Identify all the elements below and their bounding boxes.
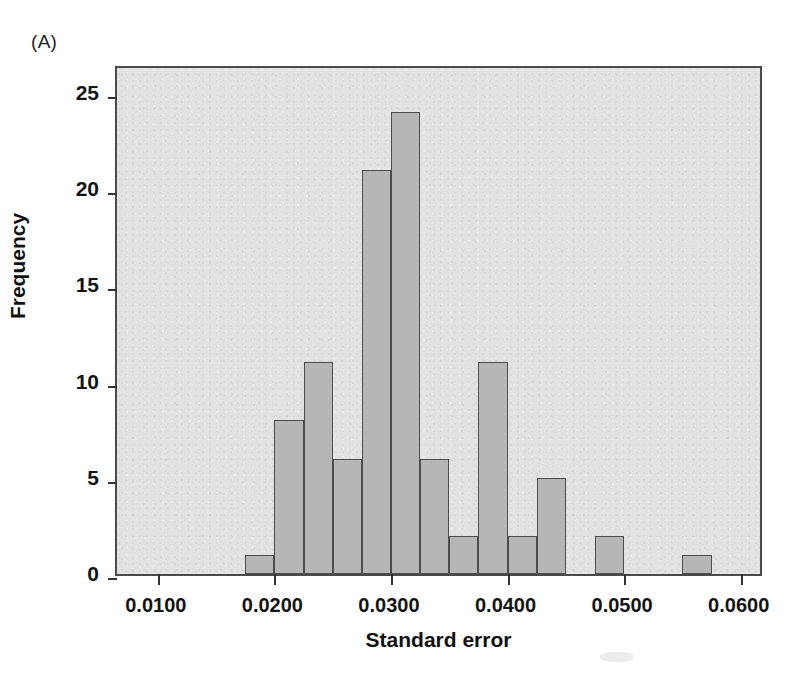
y-tick-label: 0 — [87, 562, 99, 586]
y-axis-tick — [108, 578, 117, 580]
x-tick-label: 0.0200 — [242, 594, 303, 617]
plot-area — [115, 66, 762, 576]
bars-layer — [117, 68, 760, 574]
x-tick-label: 0.0300 — [358, 594, 419, 617]
y-axis-tick — [108, 97, 117, 99]
x-axis-title: Standard error — [115, 628, 762, 652]
histogram-bar — [304, 362, 333, 574]
x-axis-tick — [508, 574, 510, 585]
y-axis-tick — [108, 193, 117, 195]
histogram-bar — [420, 459, 449, 574]
histogram-bar — [478, 362, 507, 574]
x-axis-tick — [274, 574, 276, 585]
histogram-bar — [508, 536, 537, 574]
x-tick-label: 0.0500 — [592, 594, 653, 617]
y-axis-tick — [108, 289, 117, 291]
x-tick-label: 0.0600 — [708, 594, 769, 617]
y-tick-label: 10 — [76, 370, 99, 394]
y-tick-label: 25 — [76, 81, 99, 105]
y-axis-title: Frequency — [6, 213, 30, 319]
x-axis-tick — [391, 574, 393, 585]
x-tick-label: 0.0100 — [125, 594, 186, 617]
histogram-bar — [595, 536, 624, 574]
x-axis-tick — [624, 574, 626, 585]
y-tick-label: 20 — [76, 177, 99, 201]
panel-label: (A) — [31, 31, 57, 53]
y-axis-tick — [108, 482, 117, 484]
histogram-bar — [682, 555, 711, 574]
histogram-bar — [537, 478, 566, 574]
x-tick-label: 0.0400 — [475, 594, 536, 617]
histogram-figure: (A) Frequency 0510152025 0.01000.02000.0… — [0, 0, 798, 680]
histogram-bar — [391, 112, 420, 574]
histogram-bar — [362, 170, 391, 574]
y-tick-label: 15 — [76, 273, 99, 297]
histogram-bar — [274, 420, 303, 574]
histogram-bar — [449, 536, 478, 574]
scan-smudge — [600, 652, 634, 662]
x-axis-tick — [158, 574, 160, 585]
y-axis-tick — [108, 386, 117, 388]
histogram-bar — [333, 459, 362, 574]
x-axis-tick — [741, 574, 743, 585]
y-tick-label: 5 — [87, 466, 99, 490]
histogram-bar — [245, 555, 274, 574]
